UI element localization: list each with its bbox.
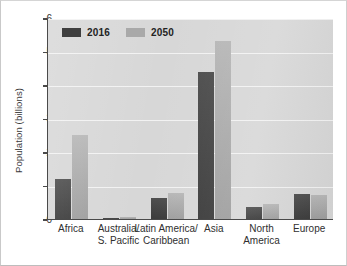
y-axis-title: Population (billions) xyxy=(13,56,24,206)
bar-2016-africa xyxy=(55,179,71,219)
plot-area: 20162050 xyxy=(47,19,333,220)
legend-label-2016: 2016 xyxy=(87,27,110,38)
bar-2016-europe xyxy=(294,194,310,219)
x-tick-label-europe: Europe xyxy=(273,223,345,235)
bar-2050-africa xyxy=(72,135,88,219)
x-axis-label-group: AfricaAustralia/S. PacificLatin America/… xyxy=(47,223,333,263)
legend-swatch-2016 xyxy=(62,28,81,37)
gridline-1 xyxy=(48,187,333,188)
legend-swatch-2050 xyxy=(126,28,145,37)
gridline-6 xyxy=(48,19,333,20)
bar-2050-asia xyxy=(215,41,231,219)
legend-item-2016: 2016 xyxy=(62,27,110,38)
bar-2016-asia xyxy=(198,72,214,219)
gridline-4 xyxy=(48,86,333,87)
legend-label-2050: 2050 xyxy=(151,27,174,38)
gridline-5 xyxy=(48,53,333,54)
bar-2016-latinamericacaribbean xyxy=(151,198,167,219)
bar-2050-latinamericacaribbean xyxy=(168,193,184,219)
bar-2050-europe xyxy=(311,195,327,219)
bar-2016-northamerica xyxy=(246,207,262,219)
gridline-2 xyxy=(48,153,333,154)
bar-2050-northamerica xyxy=(263,204,279,219)
bar-2050-australiaspacific xyxy=(120,217,136,219)
legend-item-2050: 2050 xyxy=(126,27,174,38)
population-bar-chart-figure: Population (billions) 0123456 20162050 A… xyxy=(0,0,347,266)
bar-2016-australiaspacific xyxy=(103,218,119,219)
chart-legend: 20162050 xyxy=(62,27,174,38)
gridline-3 xyxy=(48,120,333,121)
